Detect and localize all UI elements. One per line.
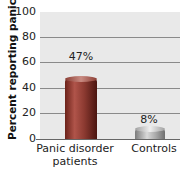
x-category-controls: Controls — [124, 142, 183, 155]
bar-panic-disorder-patients — [65, 79, 97, 139]
y-tick-80: 80 — [10, 31, 36, 43]
y-axis-label: Percent reporting panic — [6, 10, 20, 140]
y-tick-20: 20 — [10, 107, 36, 119]
bar-controls — [135, 129, 165, 139]
gridline — [40, 88, 180, 89]
category-line: Controls — [124, 142, 183, 155]
y-tick-60: 60 — [10, 56, 36, 68]
y-tick-100: 100 — [10, 6, 36, 18]
bar-cap — [135, 126, 165, 132]
y-tick-40: 40 — [10, 82, 36, 94]
category-line: patients — [25, 155, 125, 168]
bar-cap — [65, 76, 97, 82]
data-label-controls: 8% — [129, 113, 169, 126]
data-label-panic: 47% — [61, 50, 101, 63]
category-line: Panic disorder — [25, 142, 125, 155]
x-category-panic: Panic disorder patients — [25, 142, 125, 168]
x-axis-line — [36, 139, 180, 140]
gridline — [40, 37, 180, 38]
